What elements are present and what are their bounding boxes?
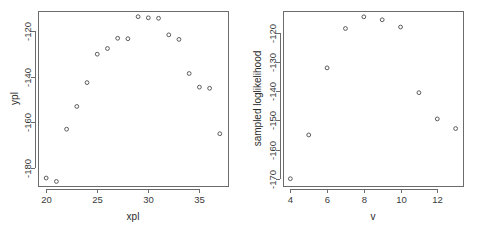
- data-point: [106, 47, 110, 51]
- x-tick-label: 4: [288, 194, 293, 205]
- plot-frame: [284, 12, 464, 187]
- data-point: [187, 72, 191, 76]
- y-tick-label: -130: [267, 53, 278, 72]
- data-point: [95, 52, 99, 56]
- data-point: [454, 127, 458, 131]
- scatter-plot-right: 4681012-170-160-150-140-130-120vsampled …: [241, 0, 482, 229]
- data-point: [399, 25, 403, 29]
- x-tick-label: 20: [41, 194, 52, 205]
- x-tick-label: 30: [143, 194, 154, 205]
- data-point: [54, 180, 58, 184]
- data-point: [126, 37, 130, 41]
- data-point: [307, 133, 311, 137]
- plot-frame: [39, 12, 229, 187]
- scatter-plot-left: 20253035-180-160-140-120xplypl: [0, 0, 241, 229]
- data-points-group: [288, 15, 457, 181]
- y-tick-label: -160: [22, 113, 33, 132]
- x-axis-title: v: [371, 211, 376, 222]
- y-axis-title: ypl: [9, 92, 20, 105]
- y-tick-label: -150: [267, 111, 278, 130]
- y-tick-label: -170: [267, 170, 278, 189]
- data-point: [167, 33, 171, 37]
- x-tick-label: 8: [362, 194, 367, 205]
- data-point: [288, 177, 292, 181]
- data-point: [380, 18, 384, 22]
- x-axis-title: xpl: [127, 211, 140, 222]
- data-point: [116, 36, 120, 40]
- data-point: [325, 66, 329, 70]
- y-tick-label: -180: [22, 159, 33, 178]
- x-tick-label: 35: [194, 194, 205, 205]
- data-point: [157, 16, 161, 20]
- data-point: [208, 86, 212, 90]
- data-point: [85, 81, 89, 85]
- x-tick-label: 10: [396, 194, 407, 205]
- x-tick-label: 6: [325, 194, 330, 205]
- data-point: [65, 127, 69, 131]
- y-tick-label: -140: [22, 68, 33, 87]
- x-tick-label: 25: [92, 194, 103, 205]
- panel-right: 4681012-170-160-150-140-130-120vsampled …: [241, 0, 482, 229]
- data-point: [417, 91, 421, 95]
- panel-left: 20253035-180-160-140-120xplypl: [0, 0, 241, 229]
- y-tick-label: -120: [267, 24, 278, 43]
- data-point: [136, 15, 140, 19]
- data-point: [146, 16, 150, 20]
- y-tick-label: -120: [22, 22, 33, 41]
- y-axis-title: sampled loglikelihood: [252, 51, 263, 147]
- data-points-group: [44, 15, 221, 184]
- y-tick-label: -160: [267, 141, 278, 160]
- data-point: [177, 38, 181, 42]
- data-point: [75, 105, 79, 109]
- y-tick-label: -140: [267, 82, 278, 101]
- data-point: [197, 85, 201, 89]
- data-point: [44, 176, 48, 180]
- data-point: [362, 15, 366, 19]
- data-point: [435, 117, 439, 121]
- data-point: [344, 27, 348, 31]
- figure-container: 20253035-180-160-140-120xplypl 4681012-1…: [0, 0, 483, 229]
- x-tick-label: 12: [432, 194, 443, 205]
- data-point: [218, 132, 222, 136]
